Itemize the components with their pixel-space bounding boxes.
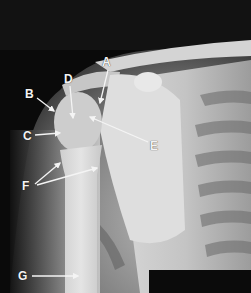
label-d: D xyxy=(64,73,73,85)
arrow-b xyxy=(37,98,54,111)
label-a: A xyxy=(102,56,111,68)
label-b: B xyxy=(25,88,34,100)
label-c: C xyxy=(23,130,32,142)
arrow-a xyxy=(100,70,108,103)
annotation-arrows xyxy=(0,0,251,293)
arrow-e xyxy=(90,117,148,142)
label-f: F xyxy=(22,180,29,192)
label-e: E xyxy=(150,140,158,152)
arrow-f-1 xyxy=(35,163,60,184)
arrow-c xyxy=(35,133,60,135)
label-g: G xyxy=(18,270,27,282)
arrow-f-2 xyxy=(37,168,97,185)
redaction-box xyxy=(149,270,251,293)
xray-image: A B C D E F G xyxy=(0,0,251,293)
arrow-d xyxy=(70,86,73,118)
